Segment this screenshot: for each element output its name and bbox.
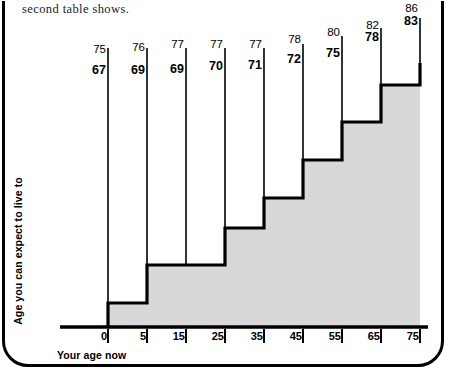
value-label-lower-65: 78	[365, 30, 379, 44]
value-label-lower-5: 69	[131, 63, 145, 77]
value-label-lower-25: 70	[209, 59, 223, 73]
y-axis-title: Age you can expect to live to	[12, 171, 24, 331]
x-axis-title: Your age now	[57, 349, 126, 361]
value-label-upper-0: 75	[93, 43, 106, 55]
x-tick-label-45: 45	[290, 330, 302, 342]
value-label-upper-5: 76	[132, 41, 145, 53]
value-label-upper-35: 77	[249, 38, 262, 50]
value-label-lower-55: 75	[326, 46, 340, 60]
value-label-upper-55: 80	[327, 26, 340, 38]
x-tick-label-15: 15	[173, 330, 185, 342]
value-label-upper-15: 77	[171, 38, 184, 50]
value-label-upper-25: 77	[210, 38, 223, 50]
value-label-upper-75: 86	[405, 2, 418, 14]
value-label-lower-0: 67	[92, 63, 106, 77]
x-tick-label-65: 65	[368, 330, 380, 342]
value-label-upper-45: 78	[288, 33, 301, 45]
x-tick-label-55: 55	[329, 330, 341, 342]
x-tick-label-35: 35	[251, 330, 263, 342]
value-label-lower-45: 72	[287, 52, 301, 66]
x-tick-label-75: 75	[407, 330, 419, 342]
x-tick-label-25: 25	[212, 330, 224, 342]
value-label-lower-15: 69	[170, 62, 184, 76]
x-tick-label-5: 5	[140, 330, 146, 342]
step-chart: Age you can expect to live to Your age n…	[0, 0, 450, 379]
x-tick-label-0: 0	[101, 330, 107, 342]
chart-canvas	[0, 0, 450, 379]
value-label-lower-35: 71	[248, 58, 262, 72]
value-label-lower-75: 83	[404, 14, 418, 28]
